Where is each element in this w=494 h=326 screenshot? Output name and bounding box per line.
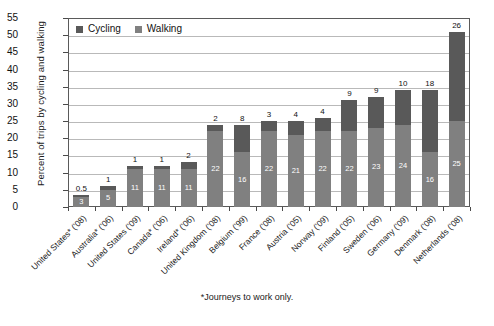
- bar-segment-walking[interactable]: 22: [315, 131, 331, 207]
- x-axis-tickmark: [309, 207, 310, 211]
- x-axis-label: Sweden ('06): [235, 213, 383, 326]
- bar-value-walking: 16: [422, 176, 438, 184]
- bar-segment-cycling[interactable]: [315, 118, 331, 132]
- bar-segment-cycling[interactable]: [154, 166, 170, 169]
- y-axis-tick-25: 25: [0, 115, 18, 126]
- bar-value-walking: 11: [127, 184, 143, 192]
- bar-segment-cycling[interactable]: [449, 32, 465, 121]
- bar-segment-cycling[interactable]: [395, 90, 411, 124]
- bar-segment-cycling[interactable]: [368, 97, 384, 128]
- bar-group[interactable]: 111: [154, 18, 170, 207]
- bar-group[interactable]: 214: [288, 18, 304, 207]
- y-axis-tick-35: 35: [0, 81, 18, 92]
- y-axis-tick-20: 20: [0, 132, 18, 143]
- y-axis-title: Percent of trips by cycling and walking: [35, 1, 46, 206]
- bar-value-cycling: 2: [201, 115, 229, 123]
- x-axis-tickmark: [282, 207, 283, 211]
- bar-segment-cycling[interactable]: [100, 186, 116, 189]
- bar-segment-walking[interactable]: 11: [127, 169, 143, 207]
- bar-segment-cycling[interactable]: [207, 125, 223, 132]
- bar-value-cycling: 4: [282, 111, 310, 119]
- bar-segment-walking[interactable]: 22: [207, 131, 223, 207]
- x-axis-tickmark: [256, 207, 257, 211]
- bar-value-cycling: 1: [94, 176, 122, 184]
- bar-group[interactable]: 2526: [449, 18, 465, 207]
- bar-segment-walking[interactable]: 21: [288, 135, 304, 207]
- y-axis-tick-45: 45: [0, 46, 18, 57]
- bar-value-walking: 21: [288, 167, 304, 175]
- bar-group[interactable]: 1618: [422, 18, 438, 207]
- bar-segment-walking[interactable]: 22: [341, 131, 357, 207]
- bar-value-walking: 11: [154, 184, 170, 192]
- bar-segment-cycling[interactable]: [422, 90, 438, 152]
- x-axis-label: Netherlands ('08): [315, 213, 463, 326]
- bar-group[interactable]: 222: [207, 18, 223, 207]
- x-axis-tickmark: [443, 207, 444, 211]
- bar-segment-walking[interactable]: 22: [261, 131, 277, 207]
- x-axis-tickmark: [202, 207, 203, 211]
- bar-group[interactable]: 168: [234, 18, 250, 207]
- bar-segment-cycling[interactable]: [288, 121, 304, 135]
- bar-segment-walking[interactable]: 16: [422, 152, 438, 207]
- footnote: *Journeys to work only.: [0, 292, 494, 302]
- bar-segment-cycling[interactable]: [181, 162, 197, 169]
- bar-segment-cycling[interactable]: [73, 195, 89, 197]
- x-axis-label: Canada* ('06): [20, 213, 168, 326]
- bar-segment-walking[interactable]: 11: [181, 169, 197, 207]
- bar-group[interactable]: 51: [100, 18, 116, 207]
- x-axis-label: Germany ('09): [262, 213, 410, 326]
- bar-group[interactable]: 111: [127, 18, 143, 207]
- x-axis-label: Austria ('05): [154, 213, 302, 326]
- cycling-swatch-icon: [76, 26, 83, 33]
- bar-value-cycling: 2: [175, 152, 203, 160]
- bar-segment-cycling[interactable]: [261, 121, 277, 131]
- bar-value-walking: 22: [207, 165, 223, 173]
- bar-group[interactable]: 229: [341, 18, 357, 207]
- bar-segment-walking[interactable]: 5: [100, 190, 116, 207]
- bar-series-container: 30.5511111111122221682232142242292392410…: [68, 18, 470, 207]
- legend-item-cycling[interactable]: Cycling: [76, 24, 121, 34]
- bar-segment-cycling[interactable]: [341, 100, 357, 131]
- bar-value-walking: 22: [315, 165, 331, 173]
- bar-segment-cycling[interactable]: [234, 125, 250, 152]
- y-axis-tick-55: 55: [0, 12, 18, 23]
- y-axis-tick-15: 15: [0, 149, 18, 160]
- bar-value-cycling: 9: [362, 87, 390, 95]
- y-axis-tick-5: 5: [0, 184, 18, 195]
- bar-value-walking: 16: [234, 176, 250, 184]
- x-axis-tickmark: [122, 207, 123, 211]
- bar-value-cycling: 0.5: [67, 185, 95, 193]
- bar-segment-walking[interactable]: 11: [154, 169, 170, 207]
- x-axis-label: Ireland* ('06): [47, 213, 195, 326]
- bar-segment-walking[interactable]: 25: [449, 121, 465, 207]
- bar-group[interactable]: 224: [315, 18, 331, 207]
- bar-value-cycling: 3: [255, 111, 283, 119]
- walking-swatch-icon: [135, 26, 142, 33]
- bar-value-walking: 24: [395, 162, 411, 170]
- bar-group[interactable]: 2410: [395, 18, 411, 207]
- bar-group[interactable]: 112: [181, 18, 197, 207]
- bar-group[interactable]: 239: [368, 18, 384, 207]
- bar-value-cycling: 1: [121, 156, 149, 164]
- legend-label-cycling: Cycling: [88, 24, 121, 34]
- bar-segment-walking[interactable]: 3: [73, 197, 89, 207]
- bar-value-cycling: 18: [416, 80, 444, 88]
- bar-segment-walking[interactable]: 16: [234, 152, 250, 207]
- bar-group[interactable]: 30.5: [73, 18, 89, 207]
- bar-value-cycling: 1: [148, 156, 176, 164]
- x-axis-tickmark: [148, 207, 149, 211]
- bar-segment-cycling[interactable]: [127, 166, 143, 169]
- bar-value-walking: 25: [449, 160, 465, 168]
- bar-segment-walking[interactable]: 24: [395, 125, 411, 207]
- bar-value-cycling: 9: [335, 90, 363, 98]
- bar-value-walking: 23: [368, 163, 384, 171]
- bar-value-cycling: 10: [389, 80, 417, 88]
- bar-segment-walking[interactable]: 23: [368, 128, 384, 207]
- y-axis-tick-50: 50: [0, 29, 18, 40]
- x-axis-label: France ('08): [128, 213, 276, 326]
- bar-group[interactable]: 223: [261, 18, 277, 207]
- bar-value-cycling: 8: [228, 115, 256, 123]
- bar-value-walking: 22: [341, 165, 357, 173]
- legend-item-walking[interactable]: Walking: [135, 24, 182, 34]
- legend: Cycling Walking: [74, 23, 186, 35]
